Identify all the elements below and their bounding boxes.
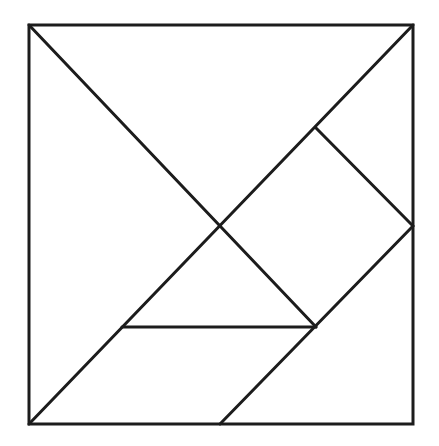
main-diagonal-tl-br-line [29, 25, 316, 327]
square-edge-upper-line [316, 128, 413, 226]
tangram-segments [29, 25, 413, 424]
tangram-svg [0, 0, 439, 446]
tangram-diagram [0, 0, 439, 446]
